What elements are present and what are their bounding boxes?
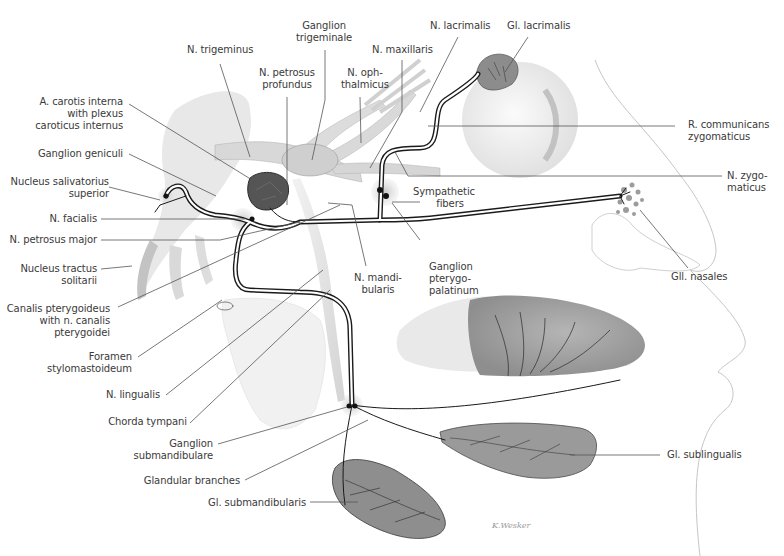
label-sympathetic-fibers: Sympatheticfibers xyxy=(413,186,475,210)
submandibular-gland xyxy=(332,460,445,539)
label-gl-sublingualis: Gl. sublingualis xyxy=(667,449,742,461)
label-n-petrosus-profundus: N. petrosusprofundus xyxy=(259,67,315,91)
label-gl-submandibularis: Gl. submandibularis xyxy=(208,497,306,509)
label-foramen-stylomastoideum: Foramenstylomastoideum xyxy=(47,351,132,375)
label-ganglion-submandibulare: Ganglionsubmandibulare xyxy=(134,438,213,462)
label-n-mandibularis: N. mandi-bularis xyxy=(354,272,402,296)
label-nucleus-tractus-solitarii: Nucleus tractussolitarii xyxy=(20,263,97,287)
label-chorda-tympani: Chorda tympani xyxy=(108,416,187,428)
label-r-communicans-zygomaticus: R. communicanszygomaticus xyxy=(688,119,769,143)
label-n-ophthalmicus: N. oph-thalmicus xyxy=(341,67,389,91)
label-ganglion-geniculi: Ganglion geniculi xyxy=(38,148,123,160)
nasal-glands xyxy=(616,183,644,217)
label-n-maxillaris: N. maxillaris xyxy=(372,44,433,56)
label-n-lingualis: N. lingualis xyxy=(106,389,160,401)
label-n-zygomaticus: N. zygo-maticus xyxy=(727,170,767,194)
label-n-petrosus-major: N. petrosus major xyxy=(10,234,97,246)
label-a-carotis-interna: A. carotis internawith plexuscaroticus i… xyxy=(35,96,123,132)
sublingual-gland xyxy=(440,423,597,478)
anatomical-diagram: K.Wesker Gangliontrigeminale N. trigemin… xyxy=(0,0,784,556)
label-n-lacrimalis: N. lacrimalis xyxy=(430,20,490,32)
artist-signature: K.Wesker xyxy=(491,521,532,530)
tongue xyxy=(397,295,645,376)
label-n-facialis: N. facialis xyxy=(49,213,97,225)
label-glandular-branches: Glandular branches xyxy=(144,475,240,487)
label-nucleus-salivatorius-superior: Nucleus salivatoriussuperior xyxy=(11,176,109,200)
label-gl-lacrimalis: Gl. lacrimalis xyxy=(507,20,570,32)
parotid-area xyxy=(222,298,325,429)
carotid-artery xyxy=(248,172,289,210)
label-ganglion-pterygopalatinum: Ganglionpterygo-palatinum xyxy=(429,261,479,297)
label-n-trigeminus: N. trigeminus xyxy=(187,44,253,56)
label-gll-nasales: Gll. nasales xyxy=(671,271,727,283)
label-ganglion-trigeminale: Gangliontrigeminale xyxy=(296,20,352,44)
label-canalis-pterygoideus: Canalis pterygoideuswith n. canalisptery… xyxy=(7,303,110,339)
